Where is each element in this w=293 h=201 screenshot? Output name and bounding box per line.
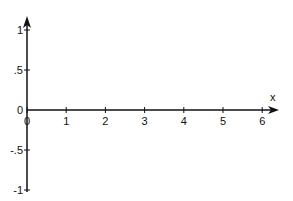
y-tick-label: -1 xyxy=(13,184,23,196)
x-tick-label: 5 xyxy=(220,115,226,127)
axes xyxy=(23,16,279,192)
x-tick-label: 0 xyxy=(24,115,30,127)
x-tick-label: 3 xyxy=(142,115,148,127)
chart-plot-area: 0123456 1.50-.5-1 x xyxy=(0,0,293,201)
y-tick-label: 1 xyxy=(17,24,23,36)
x-axis-label: x xyxy=(270,91,276,103)
x-tick-label: 1 xyxy=(63,115,69,127)
x-tick-label: 6 xyxy=(259,115,265,127)
y-tick-label: .5 xyxy=(14,64,23,76)
x-tick-label: 2 xyxy=(102,115,108,127)
y-tick-label: 0 xyxy=(17,104,23,116)
y-tick-label: -.5 xyxy=(10,144,23,156)
x-tick-label: 4 xyxy=(181,115,187,127)
